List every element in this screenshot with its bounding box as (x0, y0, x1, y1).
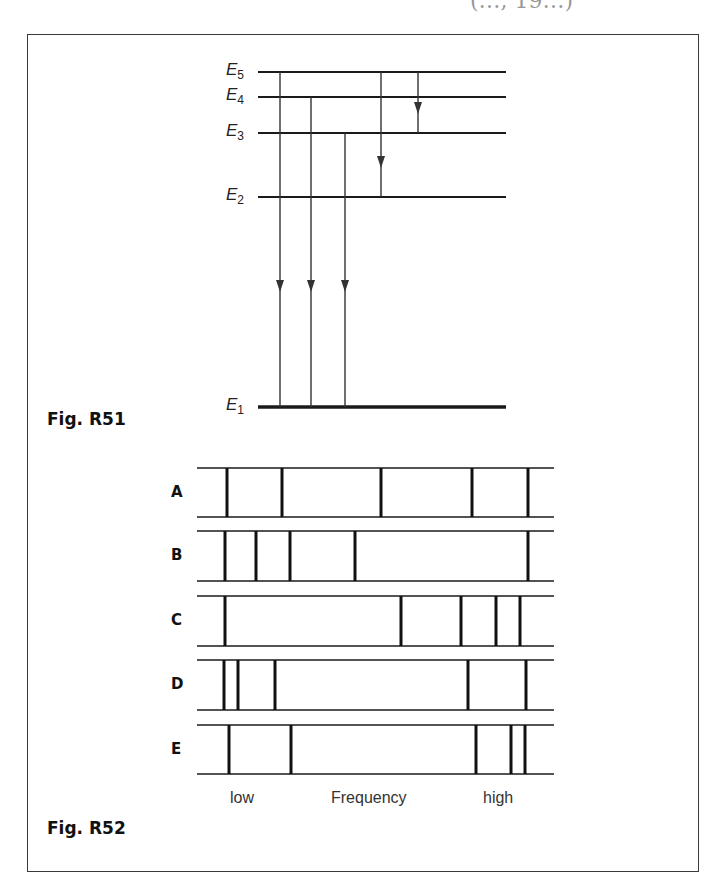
spectrum-label-c: C (171, 611, 182, 629)
energy-transitions (276, 72, 422, 407)
level-label-e2: E2 (226, 185, 244, 207)
fig-r52-caption: Fig. R52 (47, 818, 126, 838)
transition-e5-to-e3 (414, 72, 422, 133)
fig-r51-caption: Fig. R51 (47, 409, 126, 429)
arrowhead-icon (414, 102, 422, 114)
transition-e5-to-e2 (377, 72, 385, 197)
axis-high-label: high (483, 789, 513, 807)
spectrum-a (197, 468, 554, 517)
spectrum-label-d: D (171, 675, 183, 693)
spectrum-label-a: A (171, 483, 183, 501)
arrowhead-icon (341, 280, 349, 292)
arrowhead-icon (307, 280, 315, 292)
spectrum-b (197, 531, 554, 581)
spectrum-label-b: B (171, 546, 182, 564)
diagram-canvas (0, 0, 719, 893)
transition-e3-to-e1 (341, 133, 349, 407)
spectrum-c (197, 596, 554, 646)
spectrum-d (197, 660, 554, 710)
axis-title-frequency: Frequency (331, 789, 407, 807)
transition-e5-to-e1 (276, 72, 284, 407)
level-label-e4: E4 (226, 85, 244, 107)
level-label-e3: E3 (226, 121, 244, 143)
transition-e4-to-e1 (307, 97, 315, 407)
level-label-e1: E1 (226, 395, 244, 417)
axis-low-label: low (230, 789, 254, 807)
arrowhead-icon (377, 156, 385, 168)
spectrum-e (197, 725, 554, 774)
spectra-strips (197, 468, 554, 774)
energy-levels (258, 72, 506, 407)
spectrum-label-e: E (171, 740, 181, 758)
arrowhead-icon (276, 280, 284, 292)
level-label-e5: E5 (226, 60, 244, 82)
